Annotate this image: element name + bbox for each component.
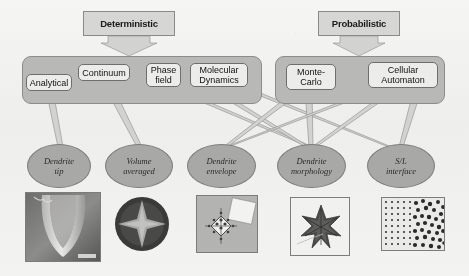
arrow-deterministic-to-group <box>101 36 157 56</box>
method-label-cellular-automaton-line1: Cellular <box>388 65 419 76</box>
method-label-phase-field-line2: field <box>155 75 172 86</box>
method-box-continuum[interactable]: Continuum <box>78 64 130 81</box>
outcome-sl-interface-line2: interface <box>386 166 416 176</box>
outcome-sl-interface-line1: S/L <box>395 156 406 166</box>
dendrite-morphology-image <box>291 198 350 256</box>
dendrite-tip-image <box>26 193 101 262</box>
outcome-dendrite-envelope[interactable]: Dendrite envelope <box>187 144 256 188</box>
method-box-phase-field[interactable]: Phase field <box>146 63 181 87</box>
banner-probabilistic: Probabilistic <box>318 11 400 36</box>
outcome-dendrite-tip-line1: Dendrite <box>44 156 74 166</box>
sl-interface-simulation <box>381 197 445 251</box>
method-label-cellular-automaton-line2: Automaton <box>381 75 425 86</box>
banner-deterministic: Deterministic <box>83 11 175 36</box>
method-label-monte-carlo-line2: Carlo <box>300 77 322 88</box>
outcome-sl-interface[interactable]: S/L interface <box>367 144 435 188</box>
method-box-analytical[interactable]: Analytical <box>26 74 72 91</box>
volume-averaged-image <box>113 196 171 252</box>
banner-probabilistic-label: Probabilistic <box>332 18 386 29</box>
method-label-analytical: Analytical <box>30 78 69 88</box>
outcome-dendrite-envelope-line2: envelope <box>206 166 236 176</box>
outcome-dendrite-morphology[interactable]: Dendrite morphology <box>277 144 346 188</box>
method-label-molecular-dynamics-line1: Molecular <box>199 65 238 76</box>
banner-deterministic-label: Deterministic <box>100 18 158 29</box>
dendrite-envelope-image <box>197 196 258 253</box>
figure-canvas: .wire{fill:#d3d2ce;stroke:#8c8b87;stroke… <box>0 0 469 276</box>
method-label-continuum: Continuum <box>82 68 126 78</box>
outcome-dendrite-envelope-line1: Dendrite <box>206 156 236 166</box>
dendrite-envelope-simulation <box>196 195 258 253</box>
dendrite-tip-micrograph <box>25 192 101 262</box>
outcome-volume-averaged[interactable]: Volume averaged <box>105 144 173 188</box>
outcome-dendrite-morphology-line2: morphology <box>291 166 332 176</box>
method-box-molecular-dynamics[interactable]: Molecular Dynamics <box>190 63 248 87</box>
outcome-dendrite-tip[interactable]: Dendrite tip <box>27 144 91 188</box>
method-label-monte-carlo-line1: Monte- <box>297 67 325 78</box>
dendrite-morphology-simulation <box>290 197 350 256</box>
method-label-molecular-dynamics-line2: Dynamics <box>199 75 239 86</box>
outcome-dendrite-tip-line2: tip <box>55 166 64 176</box>
sl-interface-image <box>382 198 445 251</box>
method-label-phase-field-line1: Phase <box>151 65 177 76</box>
outcome-dendrite-morphology-line1: Dendrite <box>296 156 326 166</box>
method-box-cellular-automaton[interactable]: Cellular Automaton <box>368 62 438 88</box>
method-box-monte-carlo[interactable]: Monte- Carlo <box>286 64 336 90</box>
outcome-volume-averaged-line2: averaged <box>123 166 155 176</box>
arrow-probabilistic-to-group <box>333 36 385 56</box>
outcome-volume-averaged-line1: Volume <box>126 156 151 166</box>
volume-averaged-simulation <box>113 196 171 252</box>
